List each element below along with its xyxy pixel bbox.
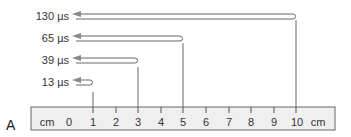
ruler-tick-label: 8 (248, 116, 254, 128)
arrowhead-icon (72, 77, 81, 83)
arrowhead-icon (72, 55, 81, 61)
ruler-tick-label: 9 (271, 116, 277, 128)
ruler-unit-left: cm (40, 116, 55, 128)
ruler-unit-right: cm (311, 116, 326, 128)
arrowhead-icon (72, 11, 81, 17)
echo-label-13us: 13 µs (42, 76, 69, 88)
echo-path-39us (76, 58, 138, 107)
echo-label-65us: 65 µs (42, 32, 69, 44)
echo-path-13us (76, 80, 93, 107)
panel-letter: A (6, 117, 15, 133)
ruler-tick-label: 10 (291, 116, 303, 128)
echo-path-65us (76, 36, 183, 107)
echo-path-130us (76, 14, 296, 107)
echo-label-130us: 130 µs (36, 10, 69, 22)
ruler-tick-label: 5 (180, 116, 186, 128)
ruler-tick-label: 3 (135, 116, 141, 128)
ruler-tick-label: 1 (90, 116, 96, 128)
ruler-tick-label: 7 (226, 116, 232, 128)
ruler-tick-label: 2 (113, 116, 119, 128)
ruler-tick-label: 6 (203, 116, 209, 128)
echo-depth-diagram: 130 µs 65 µs 39 µs 13 µs cm 0 1 2 3 4 5 … (0, 0, 351, 137)
arrowhead-icon (72, 33, 81, 39)
ruler-tick-label: 4 (158, 116, 164, 128)
echo-label-39us: 39 µs (42, 54, 69, 66)
ruler-tick-label: 0 (66, 116, 72, 128)
